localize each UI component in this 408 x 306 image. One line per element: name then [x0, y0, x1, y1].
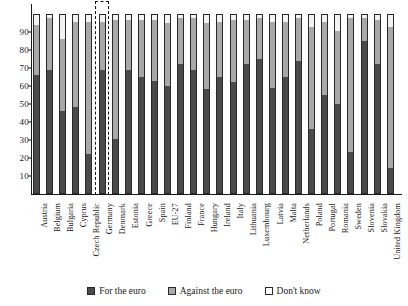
x-label-united-kingdom: United Kingdom — [393, 203, 402, 260]
bar-italy — [230, 14, 237, 195]
x-label-belgium: Belgium — [53, 203, 62, 232]
x-label-portugal: Portugal — [328, 203, 337, 232]
segment-against-the-euro — [34, 25, 39, 75]
plot-area: 102030405060708090 AustriaBelgiumBulgari… — [32, 4, 402, 194]
legend-swatch-icon-0 — [87, 287, 95, 295]
segment-against-the-euro — [152, 20, 157, 81]
legend-swatch-icon-1 — [168, 287, 176, 295]
bar-romania — [334, 14, 341, 195]
x-label-luxembourg: Luxembourg — [262, 203, 271, 246]
x-label-germany: Germany — [105, 203, 114, 234]
y-tick-mark-10 — [28, 175, 32, 176]
segment-for-the-euro — [348, 152, 353, 193]
legend-label-0: For the euro — [99, 286, 145, 296]
segment-for-the-euro — [375, 64, 380, 193]
y-tick-mark-70 — [28, 67, 32, 68]
segment-for-the-euro — [231, 82, 236, 193]
y-tick-mark-50 — [28, 103, 32, 104]
x-label-italy: Italy — [236, 203, 245, 219]
x-label-france: France — [197, 203, 206, 226]
segment-don-t-know — [204, 15, 209, 24]
segment-against-the-euro — [73, 22, 78, 108]
y-tick-mark-40 — [28, 121, 32, 122]
segment-don-t-know — [73, 15, 78, 22]
segment-against-the-euro — [47, 18, 52, 70]
segment-against-the-euro — [283, 22, 288, 77]
segment-don-t-know — [335, 15, 340, 31]
segment-don-t-know — [309, 15, 314, 28]
x-label-sweden: Sweden — [354, 203, 363, 230]
bar-portugal — [321, 14, 328, 195]
segment-against-the-euro — [231, 20, 236, 82]
segment-for-the-euro — [34, 75, 39, 193]
x-label-czech-republic: Czech Republic — [92, 203, 101, 256]
segment-against-the-euro — [335, 31, 340, 104]
segment-don-t-know — [270, 15, 275, 22]
segment-for-the-euro — [47, 70, 52, 193]
segment-against-the-euro — [113, 20, 118, 140]
segment-don-t-know — [217, 15, 222, 22]
segment-against-the-euro — [322, 22, 327, 95]
bar-eu-27 — [164, 14, 171, 195]
bar-lithuania — [243, 14, 250, 195]
x-label-slovenia: Slovenia — [367, 203, 376, 232]
x-label-lithuania: Lithuania — [249, 203, 258, 235]
chart-legend: For the euroAgainst the euroDon't know — [0, 286, 408, 296]
x-label-greece: Greece — [145, 203, 154, 227]
legend-item-1: Against the euro — [168, 286, 243, 296]
x-label-finland: Finland — [184, 203, 193, 229]
bar-finland — [177, 14, 184, 195]
x-label-hungary: Hungary — [210, 203, 219, 232]
segment-for-the-euro — [113, 139, 118, 193]
x-label-slovakia: Slovakia — [380, 203, 389, 232]
bar-hungary — [203, 14, 210, 195]
x-label-spain: Spain — [158, 203, 167, 222]
x-label-poland: Poland — [315, 203, 324, 226]
segment-against-the-euro — [139, 20, 144, 77]
bar-ireland — [216, 14, 223, 195]
segment-don-t-know — [388, 15, 393, 28]
x-label-estonia: Estonia — [131, 203, 140, 228]
bar-netherlands — [295, 14, 302, 195]
segment-for-the-euro — [244, 64, 249, 193]
legend-label-2: Don't know — [277, 286, 321, 296]
segment-against-the-euro — [257, 18, 262, 59]
segment-for-the-euro — [296, 61, 301, 193]
germany-highlight-box — [95, 1, 109, 195]
segment-for-the-euro — [217, 77, 222, 193]
segment-for-the-euro — [152, 81, 157, 193]
segment-for-the-euro — [191, 70, 196, 193]
x-label-denmark: Denmark — [118, 203, 127, 234]
bar-austria — [33, 14, 40, 195]
segment-for-the-euro — [257, 59, 262, 193]
segment-for-the-euro — [270, 88, 275, 193]
x-axis-baseline — [31, 194, 402, 195]
segment-don-t-know — [165, 15, 170, 24]
y-tick-mark-80 — [28, 49, 32, 50]
bar-latvia — [269, 14, 276, 195]
stacked-bar-chart: 102030405060708090 AustriaBelgiumBulgari… — [0, 0, 408, 306]
segment-don-t-know — [322, 15, 327, 22]
x-label-netherlands: Netherlands — [302, 203, 311, 244]
segment-against-the-euro — [362, 18, 367, 41]
x-label-latvia: Latvia — [276, 203, 285, 225]
bar-bulgaria — [59, 14, 66, 195]
y-tick-mark-90 — [28, 31, 32, 32]
bar-malta — [282, 14, 289, 195]
y-tick-mark-60 — [28, 85, 32, 86]
segment-for-the-euro — [178, 64, 183, 193]
segment-for-the-euro — [283, 77, 288, 193]
bar-belgium — [46, 14, 53, 195]
segment-against-the-euro — [375, 20, 380, 65]
segment-against-the-euro — [244, 20, 249, 65]
segment-against-the-euro — [204, 23, 209, 89]
segment-don-t-know — [34, 15, 39, 26]
bar-slovakia — [374, 14, 381, 195]
y-tick-mark-30 — [28, 139, 32, 140]
segment-against-the-euro — [309, 27, 314, 129]
bar-luxembourg — [256, 14, 263, 195]
x-label-malta: Malta — [289, 203, 298, 223]
legend-label-1: Against the euro — [180, 286, 243, 296]
bar-czech-republic — [85, 14, 92, 195]
bar-estonia — [125, 14, 132, 195]
